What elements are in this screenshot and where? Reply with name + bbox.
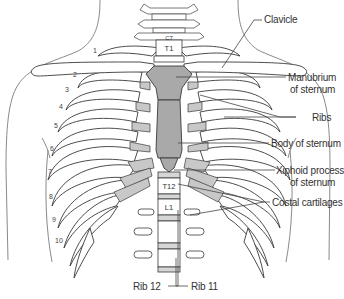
rib-number-2: 2 — [73, 71, 77, 79]
label-xiphoid-line2: of sternum — [290, 177, 335, 188]
label-manubrium-line1: Manubrium — [288, 72, 336, 83]
label-xiphoid-line1: Xiphoid process — [276, 165, 344, 176]
manubrium — [146, 66, 192, 100]
rib-number-9: 9 — [52, 216, 56, 224]
sternum — [146, 66, 192, 172]
label-rib-12: Rib 12 — [133, 281, 161, 292]
label-t12: T12 — [158, 183, 180, 191]
rib-number-10: 10 — [55, 237, 63, 245]
rib-number-1: 1 — [93, 47, 97, 55]
label-t1: T1 — [158, 45, 180, 53]
label-manubrium-line2: of sternum — [290, 84, 335, 95]
rib-number-8: 8 — [49, 193, 53, 201]
rib-number-7: 7 — [48, 168, 52, 176]
label-costal-cartilages: Costal cartilages — [272, 197, 343, 208]
label-clavicle: Clavicle — [264, 14, 297, 25]
body-of-sternum — [156, 100, 182, 158]
rib-number-6: 6 — [50, 145, 54, 153]
rib-number-4: 4 — [59, 103, 63, 111]
label-l1: L1 — [158, 204, 180, 212]
label-c7: C7 — [158, 34, 180, 42]
label-body-of-sternum: Body of sternum — [271, 138, 341, 149]
label-ribs: Ribs — [312, 112, 331, 123]
rib-number-3: 3 — [65, 86, 69, 94]
label-rib-11: Rib 11 — [191, 281, 218, 292]
rib-number-5: 5 — [54, 122, 58, 130]
